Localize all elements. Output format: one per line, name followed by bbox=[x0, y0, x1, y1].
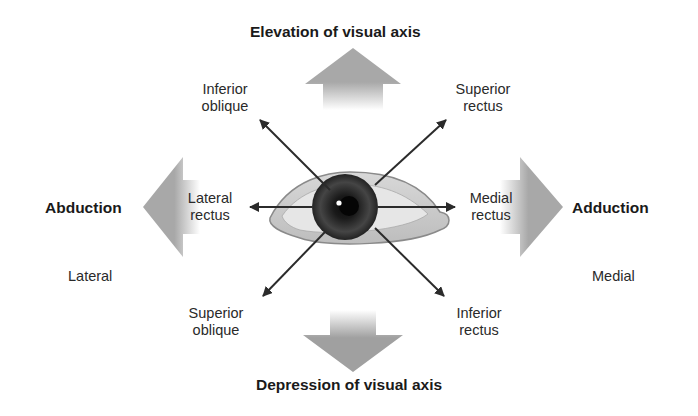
superior-rectus-arrow bbox=[375, 120, 446, 185]
medial-label: Medial bbox=[592, 268, 635, 284]
elevation-arrow-icon bbox=[305, 48, 401, 110]
depression-title: Depression of visual axis bbox=[256, 376, 442, 394]
lateral-label: Lateral bbox=[68, 268, 112, 284]
inferior-oblique-arrow bbox=[260, 120, 330, 190]
depression-arrow-icon bbox=[303, 310, 403, 372]
lateral-rectus-label: Lateral rectus bbox=[178, 190, 242, 224]
inferior-rectus-label: Inferior rectus bbox=[446, 305, 512, 339]
elevation-title: Elevation of visual axis bbox=[250, 23, 421, 41]
adduction-label: Adduction bbox=[572, 199, 649, 217]
superior-oblique-arrow bbox=[263, 232, 325, 296]
inferior-oblique-label: Inferior oblique bbox=[190, 81, 260, 115]
abduction-label: Abduction bbox=[45, 199, 122, 217]
superior-oblique-label: Superior oblique bbox=[180, 305, 252, 339]
medial-rectus-label: Medial rectus bbox=[463, 190, 519, 224]
superior-rectus-label: Superior rectus bbox=[448, 81, 518, 115]
